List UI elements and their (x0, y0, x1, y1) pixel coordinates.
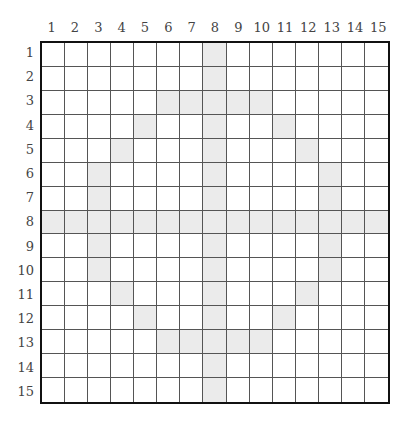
column-label: 1 (40, 20, 63, 35)
grid-cell-r11-c5 (134, 282, 157, 306)
grid-cell-r1-c13 (319, 43, 342, 67)
grid-cell-r3-c12 (296, 91, 319, 115)
grid-cell-r8-c5 (134, 211, 157, 235)
grid-cell-r5-c3 (88, 139, 111, 163)
grid-cell-r2-c6 (157, 67, 180, 91)
grid-cell-r7-c3 (88, 187, 111, 211)
grid-cell-r8-c10 (250, 211, 273, 235)
grid-cell-r14-c13 (319, 354, 342, 378)
grid-cell-r11-c11 (273, 282, 296, 306)
grid-cell-r10-c6 (157, 258, 180, 282)
grid-cell-r11-c9 (227, 282, 250, 306)
grid-cell-r12-c1 (42, 306, 65, 330)
grid-cell-r2-c15 (365, 67, 388, 91)
grid-cell-r9-c10 (250, 234, 273, 258)
grid-cell-r12-c12 (296, 306, 319, 330)
grid-cell-r3-c4 (111, 91, 134, 115)
grid-cell-r2-c9 (227, 67, 250, 91)
grid-cell-r14-c3 (88, 354, 111, 378)
grid-cell-r4-c3 (88, 115, 111, 139)
grid-cell-r4-c4 (111, 115, 134, 139)
grid-cell-r7-c8 (203, 187, 226, 211)
grid-cell-r12-c15 (365, 306, 388, 330)
grid-cell-r1-c12 (296, 43, 319, 67)
row-label: 8 (10, 214, 34, 229)
grid-cell-r12-c13 (319, 306, 342, 330)
grid-cell-r4-c5 (134, 115, 157, 139)
grid-cell-r12-c8 (203, 306, 226, 330)
grid-cell-r4-c8 (203, 115, 226, 139)
grid-cell-r2-c10 (250, 67, 273, 91)
grid-cell-r11-c6 (157, 282, 180, 306)
row-label: 14 (10, 360, 34, 375)
grid-cell-r5-c12 (296, 139, 319, 163)
grid-cell-r13-c3 (88, 330, 111, 354)
row-label: 12 (10, 311, 34, 326)
grid-cell-r11-c4 (111, 282, 134, 306)
grid-cell-r15-c7 (180, 378, 203, 402)
grid-cell-r6-c2 (65, 163, 88, 187)
grid-cell-r2-c5 (134, 67, 157, 91)
grid-cell-r7-c4 (111, 187, 134, 211)
column-label: 9 (227, 20, 250, 35)
grid-cell-r7-c14 (342, 187, 365, 211)
grid-cell-r4-c7 (180, 115, 203, 139)
grid-cell-r9-c11 (273, 234, 296, 258)
grid-cell-r15-c10 (250, 378, 273, 402)
grid-cell-r12-c7 (180, 306, 203, 330)
column-label: 13 (320, 20, 343, 35)
grid-cell-r14-c9 (227, 354, 250, 378)
column-label: 2 (63, 20, 86, 35)
grid-cell-r6-c4 (111, 163, 134, 187)
grid-cell-r8-c6 (157, 211, 180, 235)
grid-cell-r3-c10 (250, 91, 273, 115)
grid-cell-r13-c13 (319, 330, 342, 354)
grid-cell-r7-c11 (273, 187, 296, 211)
grid-cell-r11-c12 (296, 282, 319, 306)
grid-cell-r11-c14 (342, 282, 365, 306)
column-label: 15 (367, 20, 390, 35)
grid-cell-r4-c14 (342, 115, 365, 139)
grid-cell-r1-c4 (111, 43, 134, 67)
grid-cell-r4-c9 (227, 115, 250, 139)
grid-cell-r11-c7 (180, 282, 203, 306)
grid-cell-r15-c13 (319, 378, 342, 402)
grid-cell-r1-c2 (65, 43, 88, 67)
grid-cell-r5-c10 (250, 139, 273, 163)
grid-cell-r10-c9 (227, 258, 250, 282)
grid-cell-r2-c4 (111, 67, 134, 91)
grid-cell-r12-c9 (227, 306, 250, 330)
grid-cell-r9-c9 (227, 234, 250, 258)
grid-cell-r6-c10 (250, 163, 273, 187)
grid-cell-r8-c14 (342, 211, 365, 235)
grid-cell-r1-c6 (157, 43, 180, 67)
grid-cell-r10-c14 (342, 258, 365, 282)
grid-cell-r9-c2 (65, 234, 88, 258)
grid-cell-r2-c14 (342, 67, 365, 91)
grid-cell-r11-c10 (250, 282, 273, 306)
grid-cell-r13-c15 (365, 330, 388, 354)
grid-cell-r14-c4 (111, 354, 134, 378)
grid-board (40, 41, 390, 404)
grid-cell-r1-c11 (273, 43, 296, 67)
grid-cell-r4-c6 (157, 115, 180, 139)
grid-cell-r8-c15 (365, 211, 388, 235)
grid-cell-r10-c11 (273, 258, 296, 282)
column-label: 5 (133, 20, 156, 35)
grid-cell-r7-c7 (180, 187, 203, 211)
grid-cell-r4-c12 (296, 115, 319, 139)
grid-cell-r2-c12 (296, 67, 319, 91)
grid-cell-r1-c1 (42, 43, 65, 67)
grid-cell-r12-c4 (111, 306, 134, 330)
grid-cell-r1-c9 (227, 43, 250, 67)
grid-cell-r6-c7 (180, 163, 203, 187)
grid-cell-r8-c2 (65, 211, 88, 235)
row-label: 13 (10, 335, 34, 350)
grid-cell-r6-c5 (134, 163, 157, 187)
grid-cell-r13-c12 (296, 330, 319, 354)
grid-cell-r1-c15 (365, 43, 388, 67)
grid-cell-r11-c15 (365, 282, 388, 306)
grid-cell-r11-c8 (203, 282, 226, 306)
grid-cell-r12-c6 (157, 306, 180, 330)
grid-cell-r6-c15 (365, 163, 388, 187)
